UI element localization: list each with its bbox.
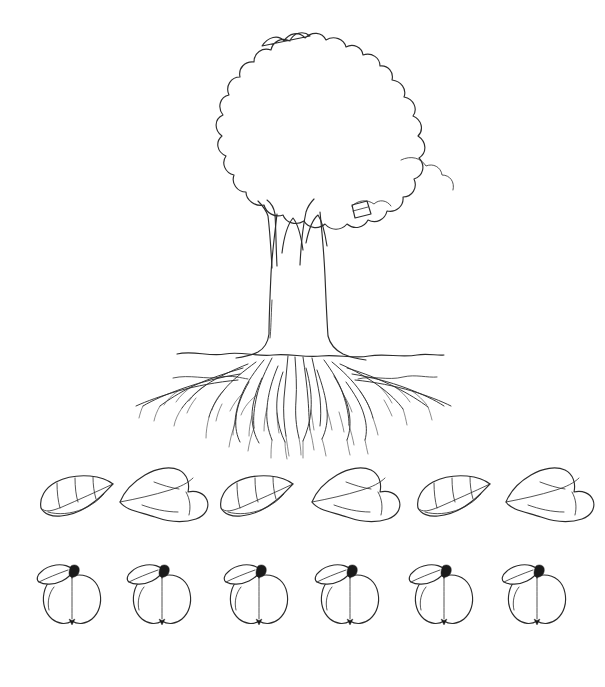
- illustration-canvas: Tree with Roots, Leaves and Apples Line …: [0, 0, 605, 687]
- tree-illustration: [0, 0, 605, 687]
